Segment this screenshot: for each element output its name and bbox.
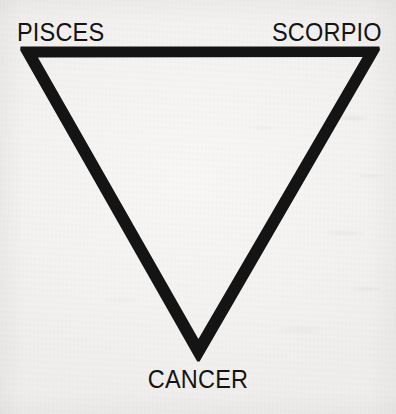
vertex-label-scorpio: SCORPIO — [272, 20, 382, 45]
water-trigon-triangle — [0, 0, 396, 414]
diagram-page: PISCES SCORPIO CANCER — [0, 0, 396, 414]
vertex-label-cancer: CANCER — [12, 367, 384, 392]
vertex-label-pisces: PISCES — [17, 20, 104, 45]
triangle-outline-shape — [20, 47, 380, 362]
